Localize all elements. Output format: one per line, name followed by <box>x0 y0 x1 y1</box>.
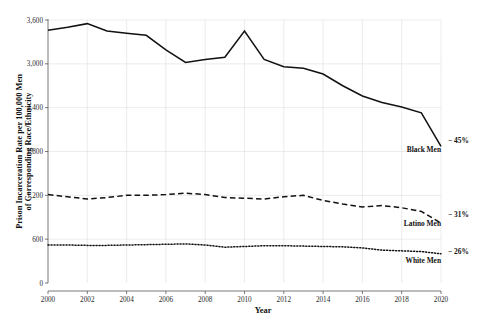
chart-container: 06001,2001,8002,4003,0003,600 2000200220… <box>0 0 486 322</box>
x-axis-tick-label: 2020 <box>434 296 449 304</box>
x-axis-tick-label: 2016 <box>355 296 370 304</box>
series-label-white-men: White Men <box>405 256 441 265</box>
x-axis-tick-label: 2002 <box>80 296 95 304</box>
y-axis-title: Prison Incarceration Rate per 100,000 Me… <box>15 74 33 229</box>
x-axis-tick-label: 2018 <box>395 296 410 304</box>
y-axis-title-line: of Corresponding Race/Ethnicity <box>24 92 33 211</box>
x-axis-tick-label: 2012 <box>277 296 292 304</box>
incarceration-rate-line-chart: 06001,2001,8002,4003,0003,600 2000200220… <box>0 0 486 322</box>
y-axis-tick-label: 600 <box>32 236 43 244</box>
series-delta-white-men: − 26% <box>448 247 469 256</box>
grid-lines <box>48 20 441 283</box>
x-axis-tick-label: 2004 <box>119 296 134 304</box>
y-axis-title-line: Prison Incarceration Rate per 100,000 Me… <box>15 74 24 229</box>
series-label-black-men: Black Men <box>407 145 441 154</box>
x-axis-title: Year <box>255 306 272 315</box>
x-axis-tick-label: 2010 <box>237 296 252 304</box>
series-labels: Black Men− 45%Latino Men− 31%White Men− … <box>404 136 469 265</box>
x-axis-tick-label: 2000 <box>41 296 56 304</box>
x-axis-tick-label: 2006 <box>159 296 174 304</box>
y-axis-tick-label: 3,000 <box>27 60 44 68</box>
x-axis-tick-label: 2008 <box>198 296 213 304</box>
series-label-latino-men: Latino Men <box>404 219 441 228</box>
x-axis-tick-label: 2014 <box>316 296 331 304</box>
series-delta-black-men: − 45% <box>448 136 469 145</box>
series-delta-latino-men: − 31% <box>448 210 469 219</box>
y-axis-tick-label: 0 <box>39 280 43 288</box>
y-axis-tick-label: 3,600 <box>27 17 44 25</box>
x-axis: 2000200220042006200820102012201420162018… <box>41 291 449 304</box>
